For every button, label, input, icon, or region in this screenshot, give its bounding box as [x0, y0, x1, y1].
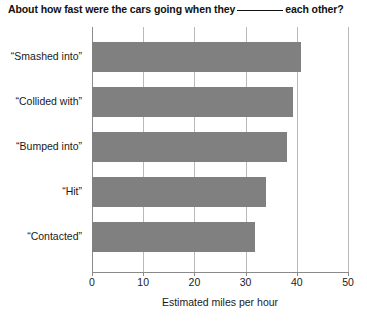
y-axis-label: “Contacted”	[0, 230, 82, 242]
x-tick-label: 20	[174, 276, 214, 288]
x-axis-title: Estimated miles per hour	[92, 296, 348, 308]
x-tick-label: 30	[226, 276, 266, 288]
bar-row	[92, 177, 348, 207]
fill-in-blank-line	[237, 10, 283, 11]
x-tick-label: 50	[328, 276, 367, 288]
x-tick-label: 40	[277, 276, 317, 288]
x-tick-label: 0	[72, 276, 112, 288]
chart-title-after-blank: each other?	[285, 3, 343, 15]
y-axis-label: “Collided with”	[0, 95, 82, 107]
y-axis-label: “Smashed into”	[0, 50, 82, 62]
bar-row	[92, 132, 348, 162]
bar-row	[92, 87, 348, 117]
y-axis-label: “Bumped into”	[0, 140, 82, 152]
bar	[92, 87, 293, 117]
bar-row	[92, 42, 348, 72]
y-axis-label: “Hit”	[0, 185, 82, 197]
bar	[92, 222, 255, 252]
bar	[92, 177, 266, 207]
bar	[92, 132, 287, 162]
bar	[92, 42, 301, 72]
x-axis-line	[92, 272, 349, 273]
chart-title: About how fast were the cars going when …	[8, 3, 363, 15]
x-tick-label: 10	[123, 276, 163, 288]
plot-area	[92, 27, 348, 272]
chart-title-before-blank: About how fast were the cars going when …	[8, 3, 235, 15]
gridline-50	[348, 27, 349, 272]
bar-row	[92, 222, 348, 252]
